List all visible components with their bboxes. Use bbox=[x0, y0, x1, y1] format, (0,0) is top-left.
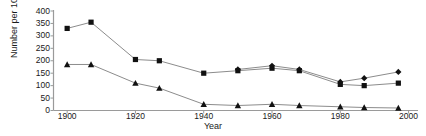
data-series-layer bbox=[64, 20, 402, 111]
axis-tick-marks bbox=[51, 11, 409, 114]
line-chart: Number per 1000 050100150200250300350400… bbox=[0, 0, 426, 136]
plot-area bbox=[0, 0, 426, 136]
series-squares-line bbox=[67, 22, 398, 85]
series-squares bbox=[65, 20, 401, 89]
square-marker bbox=[157, 58, 162, 63]
series-diamonds bbox=[235, 63, 402, 85]
square-marker bbox=[396, 81, 401, 86]
series-triangles bbox=[64, 61, 402, 110]
series-diamonds-line bbox=[238, 66, 398, 82]
axis-lines bbox=[54, 10, 419, 111]
square-marker bbox=[201, 71, 206, 76]
diamond-marker bbox=[395, 69, 401, 75]
square-marker bbox=[133, 57, 138, 62]
square-marker bbox=[88, 20, 93, 25]
x-axis-label: Year bbox=[0, 121, 426, 131]
square-marker bbox=[362, 83, 367, 88]
square-marker bbox=[65, 26, 70, 31]
diamond-marker bbox=[361, 75, 367, 81]
triangle-marker bbox=[132, 80, 138, 86]
